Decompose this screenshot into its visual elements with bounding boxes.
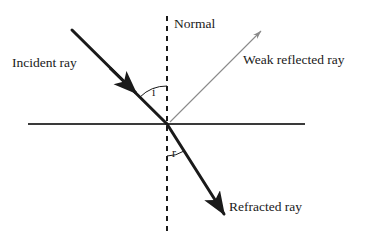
refraction-diagram: Incident ray Normal Weak reflected ray R… xyxy=(0,0,370,245)
angle-of-incidence-label: i xyxy=(152,86,155,98)
diagram-canvas xyxy=(0,0,370,245)
refracted-ray-line xyxy=(167,124,224,214)
incident-ray-arrow xyxy=(110,68,136,93)
refracted-ray-label: Refracted ray xyxy=(229,200,302,214)
weak-reflected-ray-line xyxy=(170,31,261,122)
angle-of-refraction-label: r xyxy=(172,147,176,159)
normal-label: Normal xyxy=(174,17,215,31)
incident-ray-label: Incident ray xyxy=(12,56,77,70)
weak-reflected-ray-label: Weak reflected ray xyxy=(243,53,345,67)
